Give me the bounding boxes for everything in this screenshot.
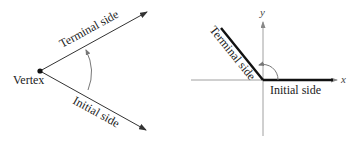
x-axis-label: x bbox=[340, 73, 346, 85]
vertex-label: Vertex bbox=[13, 73, 44, 87]
y-axis-label: y bbox=[259, 6, 265, 18]
initial-side-ray bbox=[40, 71, 146, 130]
right-angle-figure: x y Terminal side Initial side bbox=[191, 6, 346, 136]
terminal-side-label: Terminal side bbox=[207, 23, 259, 83]
initial-side-label: Initial side bbox=[270, 83, 321, 97]
angle-arc bbox=[86, 50, 92, 90]
left-angle-figure: Vertex Terminal side Initial side bbox=[13, 7, 147, 130]
angle-diagrams: Vertex Terminal side Initial side x y Te… bbox=[0, 0, 358, 143]
